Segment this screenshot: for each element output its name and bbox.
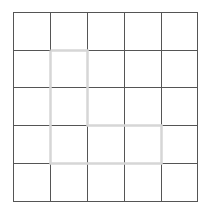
grid-cell-r0-c1[interactable]	[50, 12, 87, 50]
grid-cell-r1-c1[interactable]	[50, 50, 87, 87]
grid-cells	[13, 12, 197, 201]
grid-cell-r2-c1[interactable]	[50, 87, 87, 125]
grid-cell-r3-c3[interactable]	[124, 125, 161, 163]
grid-cell-r0-c0[interactable]	[13, 12, 50, 50]
grid-cell-r1-c4[interactable]	[161, 50, 197, 87]
grid-cell-r4-c0[interactable]	[13, 163, 50, 201]
grid-cell-r2-c0[interactable]	[13, 87, 50, 125]
grid-cell-r1-c3[interactable]	[124, 50, 161, 87]
puzzle-grid	[0, 0, 204, 203]
grid-cell-r3-c4[interactable]	[161, 125, 197, 163]
grid-cell-r4-c2[interactable]	[87, 163, 124, 201]
grid-cell-r2-c2[interactable]	[87, 87, 124, 125]
grid-cell-r4-c4[interactable]	[161, 163, 197, 201]
grid-cell-r4-c3[interactable]	[124, 163, 161, 201]
grid-cell-r0-c3[interactable]	[124, 12, 161, 50]
grid-cell-r3-c1[interactable]	[50, 125, 87, 163]
grid-cell-r3-c0[interactable]	[13, 125, 50, 163]
grid-cell-r2-c3[interactable]	[124, 87, 161, 125]
grid-cell-r2-c4[interactable]	[161, 87, 197, 125]
grid-cell-r0-c4[interactable]	[161, 12, 197, 50]
grid-cell-r1-c2[interactable]	[87, 50, 124, 87]
grid-cell-r3-c2[interactable]	[87, 125, 124, 163]
grid-cell-r4-c1[interactable]	[50, 163, 87, 201]
grid-cell-r0-c2[interactable]	[87, 12, 124, 50]
grid-cell-r1-c0[interactable]	[13, 50, 50, 87]
